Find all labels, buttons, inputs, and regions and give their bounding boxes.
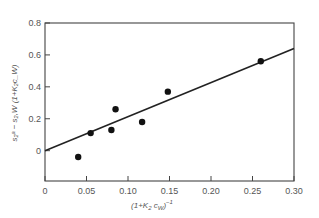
y-axis-label: s₂ᵃ − s₂,W (1+K₂c_W) — [10, 64, 19, 141]
data-point — [258, 58, 264, 64]
x-tick-label: 0.25 — [244, 186, 262, 196]
x-tick-label: 0.15 — [161, 186, 179, 196]
chart: 00.20.40.60.8 00.050.100.150.200.250.30 … — [0, 0, 319, 218]
fit-line — [45, 49, 294, 151]
x-axis-label: (1+K2 cW)−1 — [131, 199, 173, 211]
data-point — [139, 119, 145, 125]
y-tick-label: 0 — [36, 146, 41, 156]
data-point — [87, 130, 93, 136]
x-tick-label: 0.30 — [285, 186, 303, 196]
data-point — [165, 88, 171, 94]
y-axis-ticks: 00.20.40.60.8 — [28, 18, 50, 156]
data-point — [112, 106, 118, 112]
x-tick-label: 0.20 — [202, 186, 220, 196]
data-point — [75, 154, 81, 160]
y-tick-label: 0.8 — [28, 18, 41, 28]
x-tick-label: 0.10 — [119, 186, 137, 196]
plot-frame — [45, 23, 294, 181]
y-tick-label: 0.4 — [28, 82, 41, 92]
data-point — [108, 127, 114, 133]
x-axis-ticks: 00.050.100.150.200.250.30 — [42, 176, 302, 196]
y-tick-label: 0.2 — [28, 114, 41, 124]
x-tick-label: 0.05 — [78, 186, 96, 196]
x-tick-label: 0 — [42, 186, 47, 196]
data-points — [75, 58, 264, 160]
y-tick-label: 0.6 — [28, 50, 41, 60]
